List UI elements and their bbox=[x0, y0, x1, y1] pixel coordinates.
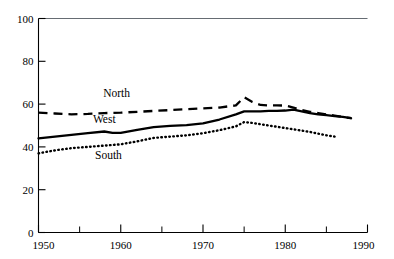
x-axis-tick-labels: 19501960197019801990 bbox=[33, 239, 376, 251]
x-tick-label: 1960 bbox=[110, 239, 133, 251]
series-label-south: South bbox=[95, 149, 122, 161]
x-axis-ticks bbox=[39, 225, 368, 233]
x-tick-label: 1970 bbox=[192, 239, 215, 251]
x-tick-label: 1990 bbox=[353, 239, 376, 251]
x-tick-label: 1980 bbox=[274, 239, 297, 251]
y-tick-label: 100 bbox=[17, 13, 34, 25]
series-group bbox=[39, 97, 352, 153]
line-chart: 020406080100 19501960197019801990 NorthW… bbox=[0, 0, 394, 259]
series-label-group: NorthWestSouth bbox=[93, 87, 130, 161]
y-axis-tick-labels: 020406080100 bbox=[17, 13, 34, 239]
y-axis-ticks bbox=[39, 19, 46, 233]
y-tick-label: 60 bbox=[23, 98, 35, 110]
series-line-north bbox=[39, 97, 352, 118]
y-tick-label: 20 bbox=[23, 184, 35, 196]
series-label-west: West bbox=[93, 113, 117, 125]
series-line-south bbox=[39, 122, 335, 153]
chart-canvas: 020406080100 19501960197019801990 NorthW… bbox=[0, 0, 394, 259]
y-tick-label: 80 bbox=[23, 55, 35, 67]
y-tick-label: 40 bbox=[23, 141, 35, 153]
x-tick-label: 1950 bbox=[33, 239, 56, 251]
y-tick-label: 0 bbox=[28, 227, 34, 239]
series-label-north: North bbox=[103, 87, 130, 99]
